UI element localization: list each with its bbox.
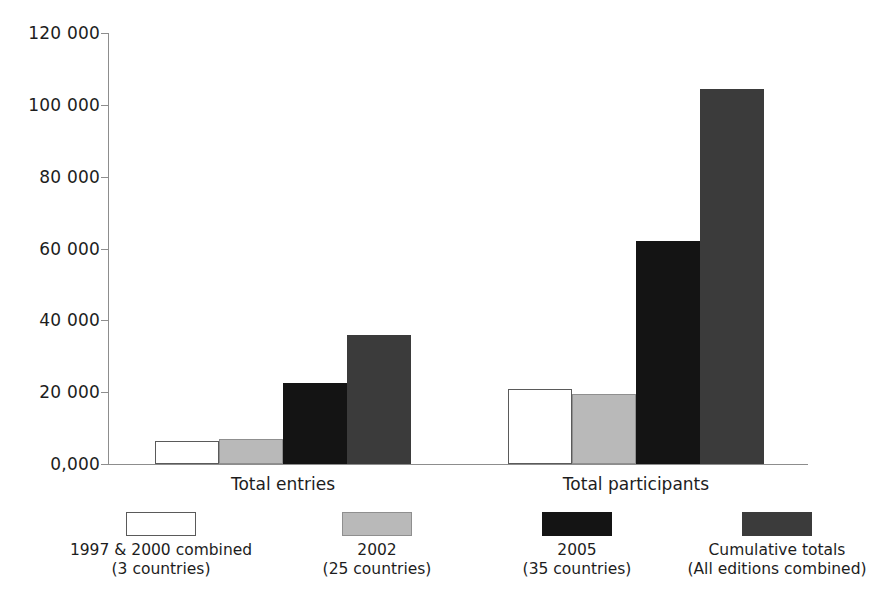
legend-label-primary: 1997 & 2000 combined <box>56 541 266 560</box>
legend-item: Cumulative totals(All editions combined) <box>672 512 870 579</box>
legend-label-primary: 2005 <box>472 541 682 560</box>
legend-label-secondary: (35 countries) <box>472 560 682 579</box>
legend-key-swatch <box>742 512 812 536</box>
x-axis-group-label: Total entries <box>173 474 393 494</box>
legend-key-swatch <box>542 512 612 536</box>
bar <box>508 389 572 464</box>
bar <box>636 241 700 464</box>
legend-label-secondary: (3 countries) <box>56 560 266 579</box>
legend-item: 2005(35 countries) <box>472 512 682 579</box>
bar <box>347 335 411 464</box>
legend-key-swatch <box>342 512 412 536</box>
x-axis-group-label: Total participants <box>526 474 746 494</box>
bar <box>700 89 764 464</box>
bar <box>283 383 347 464</box>
bar <box>572 394 636 464</box>
bar <box>219 439 283 464</box>
legend-label-secondary: (All editions combined) <box>672 560 870 579</box>
legend-label-secondary: (25 countries) <box>272 560 482 579</box>
legend-item: 2002(25 countries) <box>272 512 482 579</box>
legend-label-primary: Cumulative totals <box>672 541 870 560</box>
chart-legend: 1997 & 2000 combined(3 countries)2002(25… <box>0 512 830 604</box>
legend-key-swatch <box>126 512 196 536</box>
bars-layer <box>0 0 830 470</box>
plot-area: 120 000100 00080 00060 00040 00020 0000,… <box>0 0 830 470</box>
legend-item: 1997 & 2000 combined(3 countries) <box>56 512 266 579</box>
bar <box>155 441 219 464</box>
legend-label-primary: 2002 <box>272 541 482 560</box>
